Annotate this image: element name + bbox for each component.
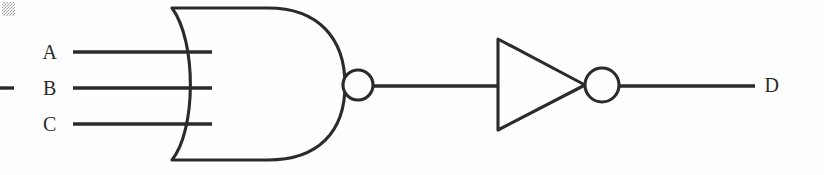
- input-label-b: B: [43, 78, 57, 98]
- input-label-c: C: [43, 114, 57, 134]
- nor-gate-bubble-icon: [343, 70, 373, 100]
- input-label-a: A: [43, 42, 58, 62]
- output-label-d: D: [765, 75, 780, 95]
- circuit-diagram-canvas: A B C D: [0, 0, 824, 175]
- logic-circuit-svg: [0, 0, 824, 175]
- inverter-bubble-icon: [585, 68, 619, 102]
- nor-gate-body: [172, 8, 345, 160]
- inverter-gate-body: [498, 39, 585, 130]
- scan-corner-mark: [2, 2, 15, 16]
